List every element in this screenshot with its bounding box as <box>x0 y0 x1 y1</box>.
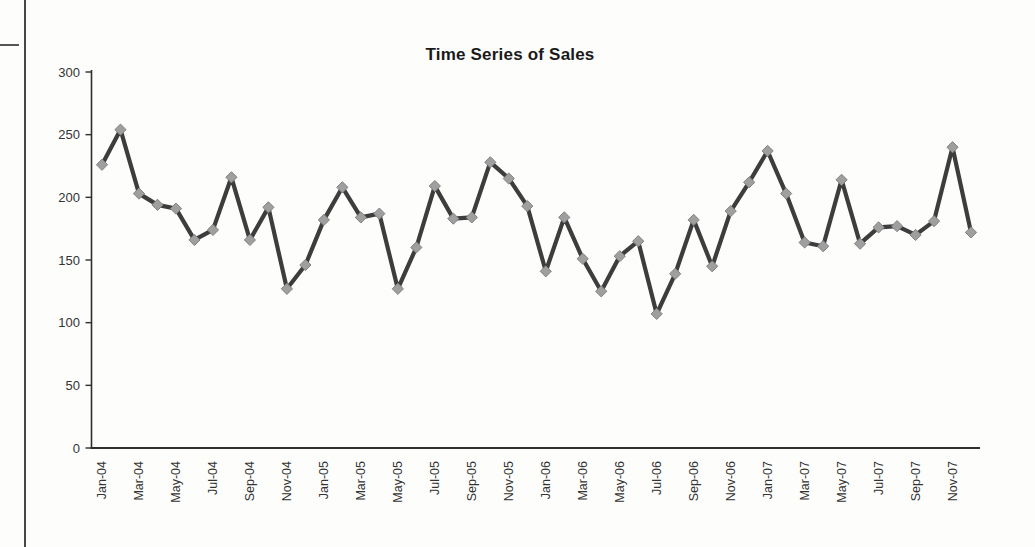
x-tick-label: Nov-06 <box>724 461 738 501</box>
y-tick-label: 250 <box>58 127 80 142</box>
x-tick-label: Sep-07 <box>909 461 923 501</box>
x-tick-label: Sep-05 <box>465 461 479 501</box>
data-point-marker <box>226 172 237 183</box>
x-tick-label: May-04 <box>169 461 183 503</box>
x-tick-label: Jul-06 <box>650 461 664 495</box>
x-tick-label: May-07 <box>835 461 849 503</box>
x-tick-label: Nov-07 <box>946 461 960 501</box>
data-point-marker <box>799 237 810 248</box>
series-line <box>102 130 971 314</box>
data-point-marker <box>947 142 958 153</box>
x-tick-label: Nov-04 <box>280 461 294 501</box>
x-tick-label: Nov-05 <box>502 461 516 501</box>
sales-line-chart: 050100150200250300Jan-04Mar-04May-04Jul-… <box>0 0 1035 547</box>
y-tick-label: 300 <box>58 65 80 80</box>
x-tick-label: Sep-06 <box>687 461 701 501</box>
data-point-marker <box>466 212 477 223</box>
x-tick-label: Jul-07 <box>872 461 886 495</box>
data-point-marker <box>836 174 847 185</box>
x-tick-label: May-06 <box>613 461 627 503</box>
x-tick-label: Jul-05 <box>428 461 442 495</box>
data-point-marker <box>707 261 718 272</box>
data-point-marker <box>540 266 551 277</box>
y-tick-label: 150 <box>58 253 80 268</box>
x-tick-label: Sep-04 <box>243 461 257 501</box>
x-tick-label: Jan-04 <box>95 461 109 499</box>
data-point-marker <box>688 214 699 225</box>
x-tick-label: Jan-05 <box>317 461 331 499</box>
x-tick-label: Mar-04 <box>132 461 146 501</box>
x-tick-label: Mar-05 <box>354 461 368 501</box>
x-tick-label: Mar-06 <box>576 461 590 501</box>
x-tick-label: Mar-07 <box>798 461 812 501</box>
data-point-marker <box>374 208 385 219</box>
data-point-marker <box>818 241 829 252</box>
scanned-page: Time Series of Sales 050100150200250300J… <box>0 0 1035 547</box>
data-point-marker <box>965 227 976 238</box>
y-tick-label: 100 <box>58 315 80 330</box>
x-tick-label: Jan-07 <box>761 461 775 499</box>
x-tick-label: Jan-06 <box>539 461 553 499</box>
y-tick-label: 200 <box>58 190 80 205</box>
y-tick-label: 0 <box>73 441 80 456</box>
x-tick-label: May-05 <box>391 461 405 503</box>
y-tick-label: 50 <box>66 378 80 393</box>
x-tick-label: Jul-04 <box>206 461 220 495</box>
